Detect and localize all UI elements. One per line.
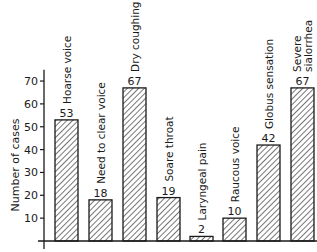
bar-category-label: sialorrhea: [302, 20, 314, 72]
y-tick-label: 30: [24, 166, 38, 179]
bar-category-label: Dry coughing: [129, 2, 141, 72]
bar: 67Severesialorrhea: [291, 20, 314, 241]
y-tick-label: 40: [24, 144, 38, 157]
bar: 10Raucous voice: [223, 127, 246, 241]
y-tick-label: 20: [24, 189, 38, 202]
bar-value-label: 67: [296, 75, 310, 88]
bar-value-label: 2: [198, 223, 205, 236]
y-axis-label: Number of cases: [9, 118, 22, 211]
bar-value-label: 53: [60, 107, 74, 120]
bar-rect: [123, 88, 146, 241]
bar: 18Need to clear voice: [89, 82, 112, 241]
bar: 2Laryngeal pain: [190, 142, 213, 241]
bar-chart: 10203040506070 53Hoarse voice18Need to c…: [0, 0, 317, 252]
y-axis: 10203040506070: [24, 70, 44, 249]
y-tick-label: 70: [24, 75, 38, 88]
bar-category-label: Hoarse voice: [61, 36, 73, 104]
bar-value-label: 67: [128, 75, 142, 88]
bar-value-label: 19: [162, 185, 176, 198]
bar-value-label: 10: [228, 205, 242, 218]
bar-rect: [223, 218, 246, 241]
y-tick-label: 10: [24, 212, 38, 225]
bar-category-label: Soare throat: [163, 116, 175, 181]
bar-category-label: Need to clear voice: [95, 82, 107, 184]
bar-rect: [291, 88, 314, 241]
bar: 67Dry coughing: [123, 2, 146, 241]
y-tick-label: 50: [24, 121, 38, 134]
bar-rect: [190, 236, 213, 241]
bar: 19Soare throat: [157, 116, 180, 241]
bars-group: 53Hoarse voice18Need to clear voice67Dry…: [55, 2, 314, 241]
bar: 53Hoarse voice: [55, 36, 78, 241]
bar-rect: [257, 145, 280, 241]
bar: 42Globus sensation: [257, 39, 280, 241]
bar-rect: [89, 200, 112, 241]
bar-category-label: Raucous voice: [229, 127, 241, 203]
bar-rect: [55, 120, 78, 241]
bar-category-label: Globus sensation: [263, 39, 275, 129]
bar-category-label: Laryngeal pain: [196, 142, 208, 220]
bar-rect: [157, 198, 180, 241]
bar-value-label: 18: [94, 187, 108, 200]
y-tick-label: 60: [24, 98, 38, 111]
bar-value-label: 42: [262, 132, 276, 145]
